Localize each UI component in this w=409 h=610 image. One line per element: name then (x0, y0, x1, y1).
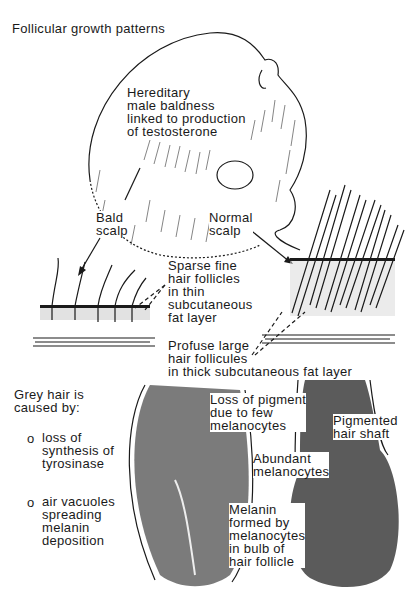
cause-bullet-1: o (27, 432, 35, 445)
cause-text-1: loss of synthesis of tyrosinase (42, 431, 114, 470)
bald-scalp-label: Bald scalp (96, 211, 128, 237)
baldness-label: Hereditary male baldness linked to produ… (127, 86, 246, 138)
cause-bullet-2: o (27, 496, 35, 509)
diagram-title: Follicular growth patterns (12, 22, 165, 35)
cause-text-2: air vacuoles spreading melanin depositio… (42, 495, 115, 547)
loss-pigment-label: Loss of pigment due to few melanocytes (210, 393, 306, 432)
bald-scalp-section (33, 258, 165, 346)
profuse-follicles-label: Profuse large hair follicules in thick s… (168, 339, 352, 378)
normal-scalp-label: Normal scalp (209, 211, 253, 237)
pigmented-shaft-label: Pigmented hair shaft (333, 414, 398, 440)
grey-hair-heading: Grey hair is caused by: (14, 388, 84, 414)
melanin-label: Melanin formed by melanocytes in bulb of… (229, 503, 305, 568)
abundant-melanocytes-label: Abundant melanocytes (253, 452, 329, 478)
sparse-follicles-label: Sparse fine hair follicles in thin subcu… (168, 259, 253, 324)
normal-scalp-section (252, 185, 404, 355)
